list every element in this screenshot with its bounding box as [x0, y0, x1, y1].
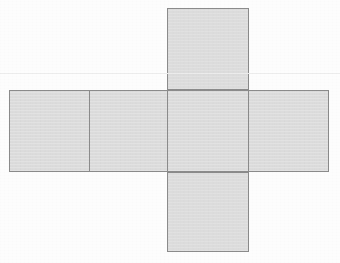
row-face-3	[167, 90, 249, 172]
top-face	[167, 8, 249, 90]
row-face-4	[248, 90, 329, 172]
bottom-face	[167, 172, 249, 252]
row-face-2	[89, 90, 168, 172]
row-face-1	[9, 90, 90, 172]
cube-net-figure	[0, 0, 340, 263]
